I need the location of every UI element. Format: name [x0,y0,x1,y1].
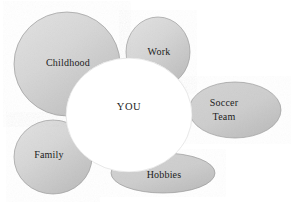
petal-soccer-team[interactable] [189,82,281,138]
petal-label-work: Work [148,46,171,57]
center-bubble[interactable] [66,58,192,172]
center-label: YOU [117,101,142,112]
petal-label-family: Family [34,149,64,160]
petal-label-soccer-line2: Team [213,111,236,122]
petal-label-soccer-line1: Soccer [210,97,239,108]
cluster-diagram-canvas: YOU Childhood Work Soccer Team Hobbies F… [0,0,294,204]
petal-label-childhood: Childhood [46,57,90,68]
petal-label-hobbies: Hobbies [147,169,182,180]
cluster-diagram: YOU Childhood Work Soccer Team Hobbies F… [0,0,294,204]
